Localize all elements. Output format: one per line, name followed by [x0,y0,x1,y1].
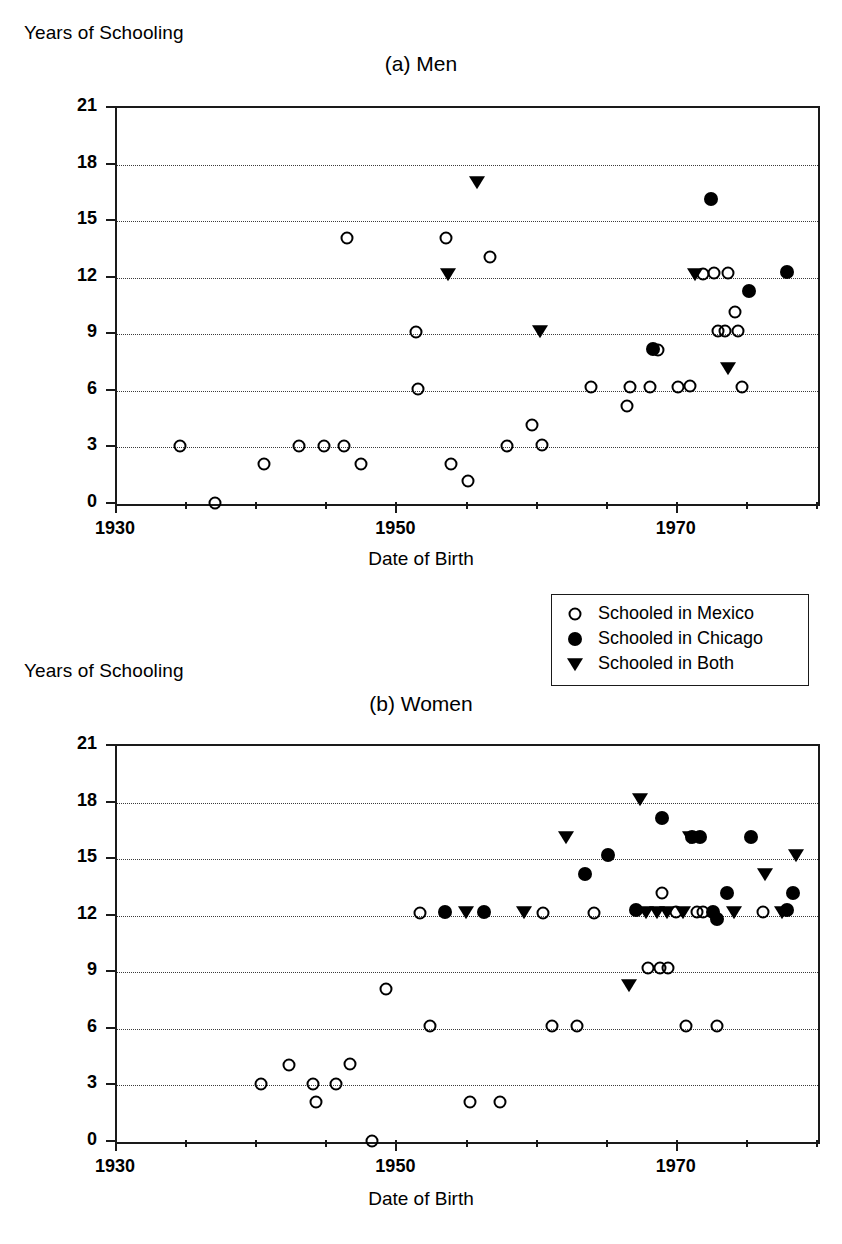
point-triangle-down [458,906,474,919]
y-tick-mark [106,445,115,447]
point-filled-circle [601,848,615,862]
x-tick-mark-minor [466,502,468,509]
point-open-circle [525,418,538,431]
gridline-y [117,1085,818,1086]
gridline-y [117,1029,818,1030]
x-tick-mark-minor [536,502,538,509]
point-triangle-down [649,906,665,919]
y-tick-label: 12 [53,903,97,924]
panel-men: Years of Schooling (a) Men Date of Birth… [0,0,842,620]
y-axis-title-men: Years of Schooling [24,22,184,44]
point-filled-circle [646,342,660,356]
y-tick-label: 3 [53,1072,97,1093]
point-triangle-down [757,868,773,881]
y-tick-label: 0 [53,491,97,512]
point-triangle-down [659,906,675,919]
point-filled-circle [780,265,794,279]
x-tick-label: 1970 [636,1156,716,1177]
x-tick-mark-minor [255,502,257,509]
point-open-circle [656,887,669,900]
point-filled-circle [786,886,800,900]
point-open-circle [423,1020,436,1033]
legend-label-mexico: Schooled in Mexico [598,603,754,624]
point-open-circle [413,906,426,919]
point-open-circle [671,381,684,394]
point-triangle-down [469,176,485,189]
x-tick-label: 1950 [355,518,435,539]
point-filled-circle [710,912,724,926]
point-open-circle [500,439,513,452]
point-open-circle [283,1058,296,1071]
x-tick-mark-minor [325,1140,327,1147]
open-circle-icon [552,601,598,626]
y-tick-label: 9 [53,959,97,980]
point-filled-circle [477,905,491,919]
gridline-y [117,972,818,973]
point-filled-circle [438,905,452,919]
y-tick-label: 21 [53,733,97,754]
x-tick-mark-minor [816,502,818,509]
y-tick-label: 9 [53,321,97,342]
y-tick-mark [106,801,115,803]
y-tick-mark [106,1027,115,1029]
x-tick-mark-minor [746,502,748,509]
plot-area-women [115,744,820,1144]
point-open-circle [642,961,655,974]
y-axis-title-women: Years of Schooling [24,660,184,682]
panel-title-men: (a) Men [0,52,842,76]
y-tick-mark [106,332,115,334]
point-filled-circle [780,903,794,917]
point-filled-circle [720,886,734,900]
gridline-y [117,859,818,860]
point-filled-circle [693,830,707,844]
gridline-y [117,221,818,222]
legend-label-both: Schooled in Both [598,653,734,674]
point-open-circle [697,905,710,918]
point-open-circle [340,232,353,245]
x-tick-mark-major [115,1140,117,1151]
x-tick-mark-minor [536,1140,538,1147]
y-tick-label: 6 [53,378,97,399]
legend-item-chicago: Schooled in Chicago [552,626,808,651]
y-tick-label: 18 [53,790,97,811]
point-open-circle [329,1077,342,1090]
y-tick-mark [106,389,115,391]
point-open-circle [440,232,453,245]
point-open-circle [711,1020,724,1033]
x-tick-mark-minor [816,1140,818,1147]
point-open-circle [255,1078,268,1091]
y-tick-label: 21 [53,95,97,116]
x-tick-label: 1930 [75,518,155,539]
y-tick-label: 3 [53,434,97,455]
point-open-circle [661,961,674,974]
y-tick-mark [106,970,115,972]
y-tick-mark [106,914,115,916]
point-filled-circle [742,284,756,298]
plot-area-men [115,106,820,506]
point-open-circle [624,381,637,394]
point-filled-circle [629,903,643,917]
x-tick-label: 1930 [75,1156,155,1177]
y-tick-label: 18 [53,152,97,173]
point-open-circle [653,961,666,974]
point-open-circle [643,381,656,394]
point-open-circle [757,905,770,918]
point-filled-circle [744,830,758,844]
x-tick-mark-major [115,502,117,513]
legend-box: Schooled in Mexico Schooled in Chicago S… [551,594,809,686]
point-open-circle [412,382,425,395]
legend-label-chicago: Schooled in Chicago [598,628,763,649]
y-tick-label: 12 [53,265,97,286]
point-open-circle [444,458,457,471]
point-open-circle [732,324,745,337]
gridline-y [117,391,818,392]
point-open-circle [174,440,187,453]
point-triangle-down [774,906,790,919]
x-tick-mark-minor [606,502,608,509]
gridline-y [117,447,818,448]
point-triangle-down [632,793,648,806]
point-open-circle [587,906,600,919]
point-open-circle [310,1096,323,1109]
point-open-circle [719,325,732,338]
panel-title-women: (b) Women [0,692,842,716]
